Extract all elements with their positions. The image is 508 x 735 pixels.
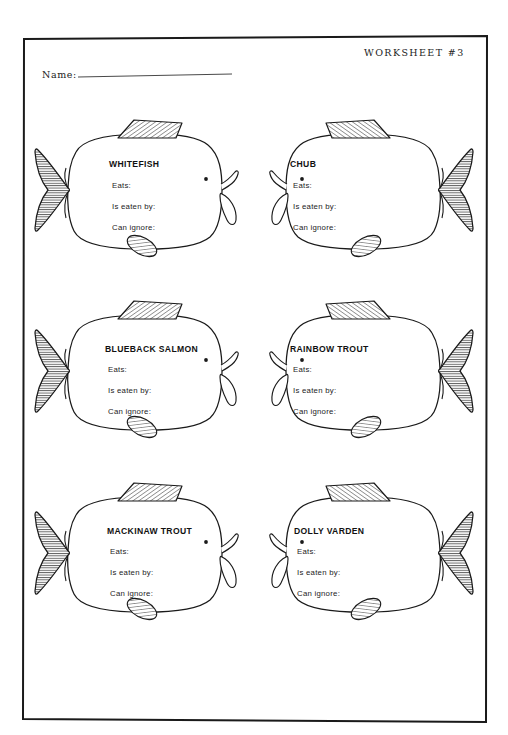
name-label: Name: [42,70,77,80]
fish-name-chub: CHUB [290,160,316,169]
fish-mackinaw-trout-art [35,483,238,624]
field-can-ignore-blueback-salmon: Can ignore: [108,408,151,416]
fish-whitefish-art [35,120,238,261]
field-can-ignore-dolly-varden: Can ignore: [297,590,340,598]
name-rule [78,74,232,77]
field-is-eaten-by-dolly-varden: Is eaten by: [297,569,340,577]
worksheet-page: WORKSHEET #3 Name: WHITEFISH Eats: Is ea… [0,0,508,735]
fish-name-rainbow-trout: RAINBOW TROUT [290,345,369,354]
fish-name-blueback-salmon: BLUEBACK SALMON [105,345,198,354]
worksheet-number: WORKSHEET #3 [364,48,465,58]
field-is-eaten-by-rainbow-trout: Is eaten by: [293,387,336,395]
field-is-eaten-by-mackinaw-trout: Is eaten by: [110,569,153,577]
field-can-ignore-chub: Can ignore: [293,224,336,232]
field-eats-dolly-varden: Eats: [297,548,316,556]
fish-blueback-salmon-art [35,301,238,442]
field-can-ignore-whitefish: Can ignore: [112,224,155,232]
fish-name-dolly-varden: DOLLY VARDEN [294,527,364,536]
worksheet-artwork [0,0,508,735]
field-eats-blueback-salmon: Eats: [108,366,127,374]
field-is-eaten-by-chub: Is eaten by: [293,203,336,211]
field-can-ignore-rainbow-trout: Can ignore: [293,408,336,416]
fish-name-mackinaw-trout: MACKINAW TROUT [107,527,192,536]
field-eats-chub: Eats: [293,182,312,190]
fish-name-whitefish: WHITEFISH [109,160,159,169]
field-can-ignore-mackinaw-trout: Can ignore: [110,590,153,598]
field-eats-whitefish: Eats: [112,182,131,190]
field-is-eaten-by-whitefish: Is eaten by: [112,203,155,211]
field-eats-mackinaw-trout: Eats: [110,548,129,556]
field-is-eaten-by-blueback-salmon: Is eaten by: [108,387,151,395]
fish-chub-art [270,120,473,261]
field-eats-rainbow-trout: Eats: [293,366,312,374]
